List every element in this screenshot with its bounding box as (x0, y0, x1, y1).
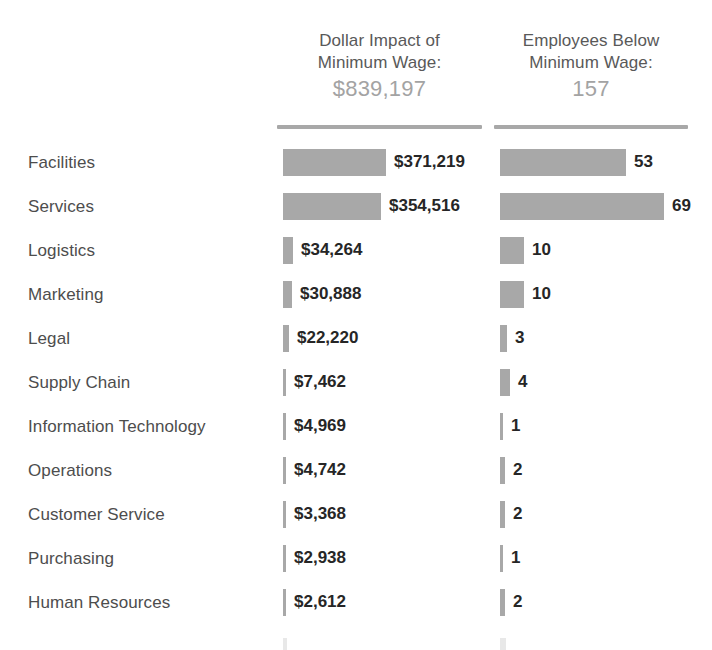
table-row: Services$354,51669 (0, 192, 712, 236)
bar-value: $2,612 (294, 588, 346, 617)
table-row: Marketing$30,88810 (0, 280, 712, 324)
bar-value: $2,938 (294, 544, 346, 573)
bar-cell: $7,462 (277, 368, 492, 412)
bar-value: $354,516 (389, 192, 460, 221)
bar (283, 413, 286, 440)
bar-cell: $354,516 (277, 192, 492, 236)
bar-cell: $371,219 (277, 148, 492, 192)
bar-value: 4 (518, 368, 527, 397)
bar-cell: $34,264 (277, 236, 492, 280)
bar-value: 10 (532, 236, 551, 265)
bar-value: 53 (634, 148, 653, 177)
column-header-line1: Employees Below (494, 30, 688, 52)
table-row: Operations$4,7422 (0, 456, 712, 500)
bar (500, 237, 524, 264)
clipped-bar (500, 638, 506, 650)
bar (500, 325, 507, 352)
row-label: Logistics (28, 236, 95, 280)
bar-cell: 2 (494, 588, 712, 632)
table-row: Logistics$34,26410 (0, 236, 712, 280)
table-row: Customer Service$3,3682 (0, 500, 712, 544)
bar (500, 589, 505, 616)
row-label: Services (28, 192, 94, 236)
bar-cell: 10 (494, 280, 712, 324)
minimum-wage-bar-table: Dollar Impact of Minimum Wage: $839,197 … (0, 0, 712, 650)
bar-cell: $2,938 (277, 544, 492, 588)
bar (283, 237, 293, 264)
bar (283, 149, 386, 176)
bar-cell: $22,220 (277, 324, 492, 368)
row-label: Purchasing (28, 544, 114, 588)
bar-value: 2 (513, 500, 522, 529)
bar-value: 10 (532, 280, 551, 309)
table-body: Facilities$371,21953Services$354,51669Lo… (0, 148, 712, 632)
bar-cell: $3,368 (277, 500, 492, 544)
bar (283, 369, 286, 396)
bar-value: $7,462 (294, 368, 346, 397)
bar (283, 325, 289, 352)
bar (500, 545, 503, 572)
bar (500, 149, 626, 176)
column-header-line1: Dollar Impact of (277, 30, 482, 52)
column-header-line2: Minimum Wage: (277, 52, 482, 74)
row-label: Legal (28, 324, 70, 368)
bar (283, 457, 286, 484)
column-header-line2: Minimum Wage: (494, 52, 688, 74)
bar-value: $371,219 (394, 148, 465, 177)
column-total-employees-below: 157 (494, 78, 688, 100)
row-label: Operations (28, 456, 112, 500)
bar (283, 193, 381, 220)
bar-value: 2 (513, 456, 522, 485)
bar-cell: 3 (494, 324, 712, 368)
row-label: Supply Chain (28, 368, 130, 412)
bar (500, 369, 510, 396)
bar-value: $30,888 (300, 280, 361, 309)
bar (283, 589, 286, 616)
bar (283, 281, 292, 308)
column-rule-dollar-impact (277, 125, 482, 129)
bar-value: $4,742 (294, 456, 346, 485)
bar (500, 193, 664, 220)
bar (283, 501, 286, 528)
bar-value: $22,220 (297, 324, 358, 353)
bar-cell: 2 (494, 500, 712, 544)
bar-cell: 53 (494, 148, 712, 192)
bar-cell: $4,969 (277, 412, 492, 456)
bar-value: 69 (672, 192, 691, 221)
bar-value: $34,264 (301, 236, 362, 265)
column-rule-employees-below (494, 125, 688, 129)
bar-cell: $2,612 (277, 588, 492, 632)
bar-value: $4,969 (294, 412, 346, 441)
bar-cell: 69 (494, 192, 712, 236)
bar (283, 545, 286, 572)
bar-value: $3,368 (294, 500, 346, 529)
bar-cell: 10 (494, 236, 712, 280)
bar-value: 1 (511, 412, 520, 441)
table-row: Supply Chain$7,4624 (0, 368, 712, 412)
bar-cell: 1 (494, 412, 712, 456)
table-row: Facilities$371,21953 (0, 148, 712, 192)
bar-cell: $30,888 (277, 280, 492, 324)
row-label: Information Technology (28, 412, 206, 456)
table-header: Dollar Impact of Minimum Wage: $839,197 … (0, 0, 712, 118)
clipped-bottom-row (0, 636, 712, 650)
bar-value: 2 (513, 588, 522, 617)
row-label: Human Resources (28, 588, 170, 632)
column-total-dollar-impact: $839,197 (277, 78, 482, 100)
bar-value: 3 (515, 324, 524, 353)
row-label: Marketing (28, 280, 104, 324)
bar (500, 457, 505, 484)
bar-cell: 1 (494, 544, 712, 588)
bar-cell: 2 (494, 456, 712, 500)
table-row: Human Resources$2,6122 (0, 588, 712, 632)
table-row: Information Technology$4,9691 (0, 412, 712, 456)
bar (500, 501, 505, 528)
row-label: Customer Service (28, 500, 165, 544)
column-header-employees-below: Employees Below Minimum Wage: 157 (494, 30, 688, 100)
table-row: Legal$22,2203 (0, 324, 712, 368)
bar-cell: $4,742 (277, 456, 492, 500)
row-label: Facilities (28, 148, 95, 192)
bar (500, 413, 503, 440)
bar-cell: 4 (494, 368, 712, 412)
bar-value: 1 (511, 544, 520, 573)
